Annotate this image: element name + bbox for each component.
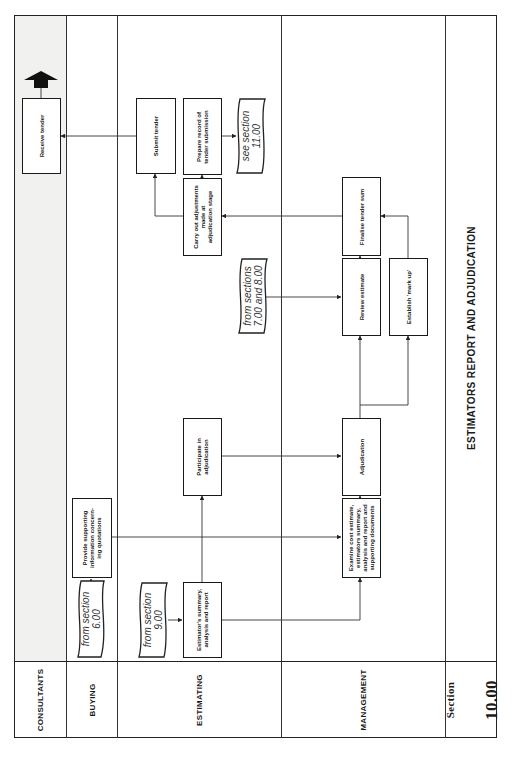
lane-label: MANAGEMENT bbox=[360, 669, 367, 730]
box-submit-tender: Submit tender bbox=[136, 98, 176, 174]
box-adjudication: Adjudication bbox=[342, 418, 381, 496]
doc-from-section-6: from section 6.00 bbox=[77, 580, 105, 658]
box-establish-mark-up: Establish 'mark up' bbox=[389, 258, 428, 336]
box-provide-supporting-information: Provide supporting information concern- … bbox=[72, 498, 112, 578]
lane-label: CONSULTANTS bbox=[37, 669, 44, 732]
lane-header-consultants: CONSULTANTS bbox=[14, 662, 66, 738]
lane-label: ESTIMATING bbox=[196, 674, 203, 726]
lane-divider bbox=[117, 15, 118, 738]
lane-header-estimating: ESTIMATING bbox=[117, 662, 281, 738]
diagram-title: ESTIMATORS REPORT AND ADJUDICATION bbox=[468, 226, 475, 450]
lane-label: BUYING bbox=[88, 684, 95, 717]
doc-see-section-11: see section 11.00 bbox=[236, 98, 266, 174]
box-prepare-record: Prepare record of tender submission bbox=[183, 98, 222, 175]
section-number-cell: Section 10.00 bbox=[445, 662, 497, 738]
box-receive-tender: Receive tender bbox=[22, 98, 61, 174]
box-carry-out-adjustments: Carry out adjustments made at adjudicati… bbox=[183, 178, 222, 256]
box-estimators-summary: Estimator's summary, analysis and report bbox=[183, 582, 222, 658]
lane-divider bbox=[66, 15, 67, 738]
doc-from-section-9: from section 9.00 bbox=[138, 582, 168, 658]
diagram-title-cell: ESTIMATORS REPORT AND ADJUDICATION bbox=[445, 15, 497, 661]
lane-header-buying: BUYING bbox=[66, 662, 117, 738]
box-examine-cost-estimate: Examine cost estimate, estimators summar… bbox=[342, 498, 381, 578]
doc-from-sections-7-8: from sections 7.00 and 8.00 bbox=[238, 258, 268, 334]
section-label: Section 10.00 bbox=[415, 680, 514, 720]
box-finalise-tender-sum: Finalise tender sum bbox=[342, 177, 381, 256]
lane-divider bbox=[281, 15, 282, 738]
box-review-estimate: Review estimate bbox=[342, 258, 381, 336]
box-participate-in-adjudication: Participate in adjudication bbox=[183, 418, 222, 496]
